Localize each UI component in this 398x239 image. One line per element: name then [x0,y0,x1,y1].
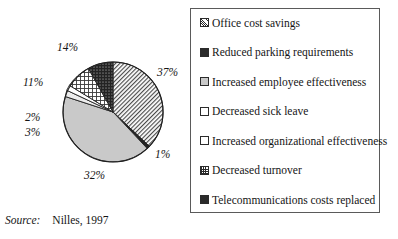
legend-item-decreased-sick-leave[interactable]: Decreased sick leave [200,105,373,118]
source-label: Source: [5,214,40,226]
legend-swatch-light-gray-icon [200,77,209,86]
legend-swatch-white-icon [200,107,209,116]
legend-label: Increased employee effectiveness [212,76,366,88]
legend-swatch-grid-crosshatch-icon [200,166,209,175]
legend-box: Office cost savings Reduced parking requ… [190,8,380,213]
legend-swatch-solid-dark-icon [200,48,209,57]
legend-label: Telecommunications costs replaced [212,194,375,206]
pie-label-3: 3% [25,126,40,138]
legend-swatch-diagonal-hatch-icon [200,18,209,27]
figure-container: 37% 1% 32% 3% 2% 11% 14% Office cost sav… [0,0,398,239]
legend-swatch-white-icon [200,136,209,145]
legend-label: Office cost savings [212,17,300,29]
pie-label-14: 14% [57,41,78,53]
pie-label-32: 32% [84,169,105,181]
legend-item-decreased-turnover[interactable]: Decreased turnover [200,164,373,177]
legend-item-increased-organizational-effectiveness[interactable]: Increased organizational effectiveness [200,134,373,147]
source-line: Source: Nilles, 1997 [5,214,109,226]
legend-label: Increased organizational effectiveness [212,135,387,147]
legend-label: Reduced parking requirements [212,46,353,58]
pie-label-11: 11% [23,76,43,88]
legend-swatch-dark-dotted-icon [200,195,209,204]
legend-label: Decreased turnover [212,164,302,176]
source-value: Nilles, 1997 [52,214,108,226]
pie-label-37: 37% [157,66,178,78]
legend-item-telecommunications-costs-replaced[interactable]: Telecommunications costs replaced [200,193,373,206]
legend-item-office-cost-savings[interactable]: Office cost savings [200,16,373,29]
pie-chart: 37% 1% 32% 3% 2% 11% 14% [0,0,190,200]
legend-item-reduced-parking-requirements[interactable]: Reduced parking requirements [200,46,373,59]
legend-label: Decreased sick leave [212,105,308,117]
legend-item-increased-employee-effectiveness[interactable]: Increased employee effectiveness [200,75,373,88]
pie-label-1: 1% [155,148,170,160]
pie-label-2: 2% [25,111,40,123]
